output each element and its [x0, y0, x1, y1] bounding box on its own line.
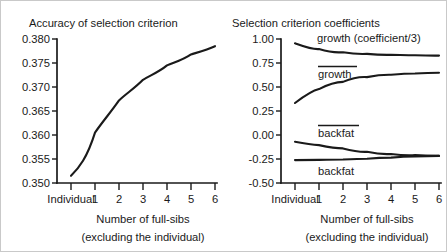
right-chart-title: Selection criterion coefficients: [232, 17, 380, 29]
left-ytick-label-1: 0.375: [22, 57, 50, 69]
right-ytick-label-3: 0.25: [252, 105, 274, 117]
right-ytick-label-5: -0.25: [249, 153, 275, 165]
right-xtick-label-1: 1: [316, 193, 322, 205]
right-series-backfat-line: [295, 156, 439, 160]
left-ytick-label-3: 0.365: [22, 105, 50, 117]
left-xtick-label-2: 2: [116, 193, 122, 205]
right-series-backfat-mean-line: [295, 142, 439, 156]
right-ytick-label-6: -0.50: [249, 177, 275, 189]
left-xtick-label-3: 3: [140, 193, 146, 205]
left-chart-canvas: Accuracy of selection criterion 0.380 0.…: [1, 1, 224, 252]
left-xtick-label-4: 4: [164, 193, 170, 205]
left-xtick-label-1: 1: [92, 193, 98, 205]
left-series-accuracy-line: [71, 46, 215, 176]
right-curve-label-backfat-mean: backfat: [318, 127, 355, 139]
right-xtick-label-5: 5: [412, 193, 418, 205]
right-series-growth-mean-line: [295, 73, 439, 103]
right-curve-label-growth-scaled: growth (coefficient/3): [317, 32, 421, 44]
right-ytick-label-2: 0.50: [252, 81, 274, 93]
chart-panel-accuracy: Accuracy of selection criterion 0.380 0.…: [1, 1, 224, 252]
right-xtick-label-4: 4: [388, 193, 394, 205]
chart-panel-coefficients: Selection criterion coefficients 1.00 0.…: [224, 1, 447, 252]
left-xtick-label-0: Individual: [47, 193, 94, 205]
right-xtick-label-6: 6: [436, 193, 442, 205]
figure-frame: Accuracy of selection criterion 0.380 0.…: [0, 0, 447, 252]
right-curve-label-backfat: backfat: [318, 165, 355, 177]
right-xtick-label-2: 2: [340, 193, 346, 205]
right-curve-label-growth-mean: growth: [318, 68, 352, 80]
left-ytick-label-4: 0.360: [22, 129, 50, 141]
right-xtick-label-0: Individual: [271, 193, 318, 205]
right-series-growth-scaled-line: [295, 43, 439, 55]
left-ytick-label-2: 0.370: [22, 81, 50, 93]
right-ytick-label-4: 0.00: [252, 129, 274, 141]
left-xaxis-caption-line2: (excluding the individual): [81, 231, 204, 243]
left-xaxis-caption-line1: Number of full-sibs: [96, 213, 190, 225]
right-ytick-label-1: 0.75: [252, 57, 274, 69]
left-ytick-label-5: 0.355: [22, 153, 50, 165]
left-chart-title: Accuracy of selection criterion: [29, 17, 178, 29]
right-xaxis-caption-line1: Number of full-sibs: [320, 213, 414, 225]
left-ytick-label-0: 0.380: [22, 33, 50, 45]
right-chart-canvas: Selection criterion coefficients 1.00 0.…: [224, 1, 447, 252]
right-xaxis-caption-line2: (excluding the individual): [305, 231, 428, 243]
right-ytick-label-0: 1.00: [252, 33, 274, 45]
left-ytick-label-6: 0.350: [22, 177, 50, 189]
left-xtick-label-6: 6: [212, 193, 218, 205]
right-xtick-label-3: 3: [364, 193, 370, 205]
left-xtick-label-5: 5: [188, 193, 194, 205]
